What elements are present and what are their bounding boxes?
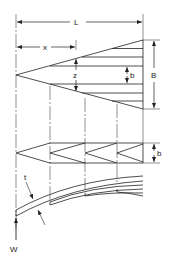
dimension-B: B xyxy=(151,41,156,108)
side-view-leaf-stack xyxy=(16,176,143,216)
dimension-z: z xyxy=(73,59,77,91)
rearranged-strips xyxy=(16,143,143,163)
label-L: L xyxy=(74,18,79,27)
label-W: W xyxy=(10,245,18,254)
label-t: t xyxy=(24,173,27,182)
label-z: z xyxy=(73,71,77,80)
label-x: x xyxy=(43,43,47,52)
dimension-L: L xyxy=(17,18,142,27)
label-b-plan: b xyxy=(130,71,135,80)
dimension-x: x xyxy=(17,43,75,52)
dimension-b-plan: b xyxy=(127,67,135,83)
leaf-spring-diagram: L x z b B xyxy=(0,0,173,256)
load-arrow-W: W xyxy=(10,218,18,254)
extension-lines xyxy=(16,14,160,230)
label-b-strips: b xyxy=(157,149,162,158)
label-B: B xyxy=(151,71,156,80)
plan-view-triangle xyxy=(16,40,143,109)
dimension-b-strips: b xyxy=(154,144,162,162)
